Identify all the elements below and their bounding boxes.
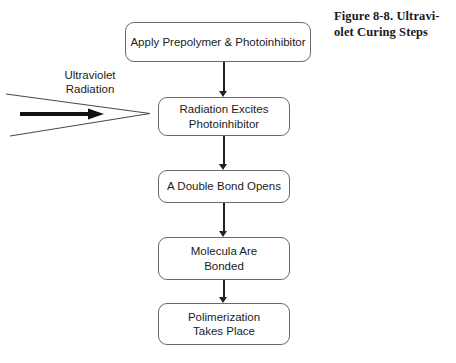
flow-step-5-line-1: Polimerization (188, 310, 260, 325)
flow-step-double-bond-opens-text: A Double Bond Opens (167, 179, 281, 194)
flow-step-1-line-1: Apply Prepolymer & Photoinhibitor (130, 35, 305, 50)
connector-line (223, 62, 225, 92)
flow-step-4-line-2: Bonded (191, 259, 257, 274)
ultraviolet-radiation-arrow-icon (0, 86, 156, 142)
connector-line (223, 203, 225, 232)
flow-step-polimerization-takes-place[interactable]: Polimerization Takes Place (158, 303, 290, 345)
flow-step-molecula-are-bonded[interactable]: Molecula Are Bonded (158, 237, 290, 280)
flow-step-5-line-2: Takes Place (188, 324, 260, 339)
figure-caption: Figure 8-8. Ultravi- olet Curing Steps (334, 8, 456, 40)
flow-step-polimerization-takes-place-text: Polimerization Takes Place (188, 310, 260, 339)
flow-step-2-line-1: Radiation Excites (180, 102, 269, 117)
flow-step-3-line-1: A Double Bond Opens (167, 179, 281, 194)
connector-step2-to-step3 (217, 136, 231, 170)
flow-step-apply-prepolymer-text: Apply Prepolymer & Photoinhibitor (130, 35, 305, 50)
connector-step1-to-step2 (217, 62, 231, 97)
figure-page: Figure 8-8. Ultravi- olet Curing Steps U… (0, 0, 456, 363)
figure-caption-line-1: Figure 8-8. Ultravi- (334, 8, 456, 24)
figure-caption-line-2: olet Curing Steps (334, 24, 456, 40)
flow-step-molecula-are-bonded-text: Molecula Are Bonded (191, 244, 257, 273)
connector-line (223, 136, 225, 165)
connector-step3-to-step4 (217, 203, 231, 237)
flow-step-apply-prepolymer[interactable]: Apply Prepolymer & Photoinhibitor (125, 22, 311, 62)
flow-step-4-line-1: Molecula Are (191, 244, 257, 259)
flow-step-double-bond-opens[interactable]: A Double Bond Opens (158, 170, 290, 203)
connector-step4-to-step5 (217, 280, 231, 303)
connector-line (223, 280, 225, 298)
flow-step-2-line-2: Photoinhibitor (180, 117, 269, 132)
flow-step-radiation-excites[interactable]: Radiation Excites Photoinhibitor (158, 97, 290, 136)
flow-step-radiation-excites-text: Radiation Excites Photoinhibitor (180, 102, 269, 131)
uv-label-line-1: Ultraviolet (38, 68, 142, 82)
